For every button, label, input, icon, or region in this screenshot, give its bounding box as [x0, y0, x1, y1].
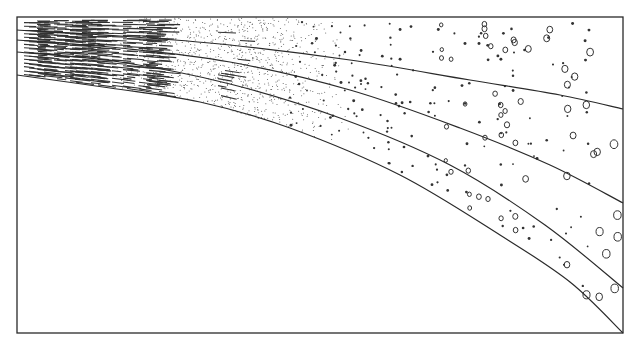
bed-boundary-b2	[17, 40, 623, 203]
bed-boundary-b4	[17, 75, 623, 333]
diagram-frame	[17, 17, 623, 333]
sediment-textures	[24, 18, 621, 301]
sediment-layers-diagram	[0, 0, 641, 352]
